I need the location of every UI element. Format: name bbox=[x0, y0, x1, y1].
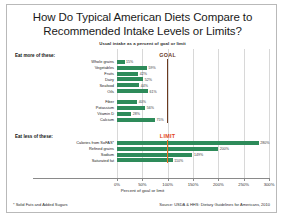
bar-value-label: 40% bbox=[139, 100, 146, 104]
reference-line bbox=[167, 140, 169, 163]
bar-value-label: 110% bbox=[174, 159, 183, 163]
x-axis-tick-label: 100% bbox=[156, 182, 180, 187]
bar bbox=[117, 141, 259, 145]
bar-category-label: Calories from SoFAS* bbox=[11, 141, 114, 145]
x-axis-tick-label: 0% bbox=[105, 182, 129, 187]
bar-value-label: 200% bbox=[220, 147, 229, 151]
bar bbox=[117, 106, 145, 110]
group-heading: Eat more of these: bbox=[15, 53, 55, 58]
chart-frame: How Do Typical American Diets Compare to… bbox=[6, 4, 277, 213]
bar-value-label: 280% bbox=[260, 141, 269, 145]
bar-category-label: Fiber bbox=[11, 100, 114, 104]
bar-category-label: Vitamin D bbox=[11, 112, 114, 116]
bar-category-label: Seafood bbox=[11, 84, 114, 88]
gridline bbox=[244, 49, 245, 178]
bar-category-label: Sodium bbox=[11, 153, 114, 157]
bar bbox=[117, 77, 143, 81]
chart-subtitle: Usual intake as a percent of goal or lim… bbox=[7, 41, 278, 46]
reference-line-label: GOAL bbox=[159, 52, 176, 58]
bar-value-label: 59% bbox=[148, 66, 155, 70]
bar-value-label: 56% bbox=[147, 106, 154, 110]
x-axis-tick-label: 250% bbox=[232, 182, 256, 187]
gridline bbox=[193, 49, 194, 178]
footnote: * Solid Fats and Added Sugars bbox=[13, 202, 67, 207]
bar bbox=[117, 66, 147, 70]
bar-category-label: Vegetables bbox=[11, 66, 114, 70]
bar bbox=[117, 100, 137, 104]
gridline bbox=[269, 49, 270, 178]
x-axis-tick-label: 300% bbox=[257, 182, 281, 187]
source-note: Source: USDA & HHS: Dietary Guidelines f… bbox=[159, 202, 270, 207]
bar bbox=[117, 89, 148, 93]
chart-plot-area: 0%50%100%150%200%250%300%Percent of goal… bbox=[7, 49, 278, 189]
bar-category-label: Potassium bbox=[11, 106, 114, 110]
bar-category-label: Oils bbox=[11, 90, 114, 94]
reference-line bbox=[167, 59, 169, 123]
bar-category-label: Dairy bbox=[11, 78, 114, 82]
bar-value-label: 75% bbox=[157, 118, 164, 122]
bar bbox=[117, 153, 192, 157]
bar-category-label: Whole grains bbox=[11, 60, 114, 64]
bar-value-label: 15% bbox=[126, 60, 133, 64]
bar-value-label: 52% bbox=[145, 78, 152, 82]
bar bbox=[117, 60, 125, 64]
bar-value-label: 149% bbox=[194, 153, 203, 157]
bar bbox=[117, 118, 155, 122]
bar bbox=[117, 83, 139, 87]
bar-category-label: Calcium bbox=[11, 118, 114, 122]
x-axis-tick-label: 50% bbox=[130, 182, 154, 187]
bar bbox=[117, 158, 173, 162]
bar bbox=[117, 112, 131, 116]
bar-value-label: 28% bbox=[133, 112, 140, 116]
reference-line-label: LIMIT bbox=[160, 133, 176, 139]
bar-value-label: 42% bbox=[140, 72, 147, 76]
bar-category-label: Saturated fat bbox=[11, 159, 114, 163]
bar-value-label: 61% bbox=[149, 90, 156, 94]
x-axis-line bbox=[33, 178, 270, 179]
bar bbox=[117, 72, 138, 76]
bar-category-label: Fruits bbox=[11, 72, 114, 76]
bar-category-label: Refined grains bbox=[11, 147, 114, 151]
bar-value-label: 44% bbox=[141, 84, 148, 88]
group-heading: Eat less of these: bbox=[15, 134, 53, 139]
x-axis-tick-label: 150% bbox=[181, 182, 205, 187]
page-title: How Do Typical American Diets Compare to… bbox=[7, 10, 278, 38]
gridline bbox=[218, 49, 219, 178]
x-axis-title: Percent of goal or limit bbox=[7, 188, 278, 193]
x-axis-tick-label: 200% bbox=[206, 182, 230, 187]
